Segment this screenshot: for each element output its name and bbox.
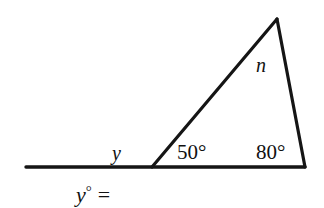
apex-angle-label-n: n — [256, 55, 266, 75]
equals-sign: = — [98, 182, 110, 207]
geometry-problem-figure: y n 50° 80° y°= — [0, 0, 324, 208]
degree-symbol: ° — [86, 183, 92, 199]
answer-prompt: y°= — [76, 182, 110, 208]
answer-variable: y — [76, 182, 86, 207]
triangle-diagram — [0, 0, 324, 208]
exterior-angle-label-y: y — [112, 143, 121, 163]
interior-angle-label-80: 80° — [256, 142, 285, 163]
interior-angle-label-50: 50° — [177, 142, 206, 163]
